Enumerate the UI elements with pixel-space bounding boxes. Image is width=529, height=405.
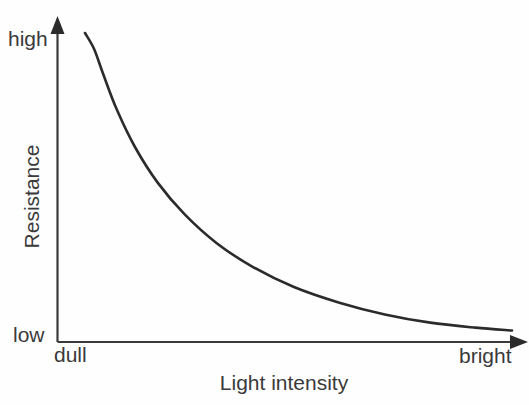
x-axis-title: Light intensity [199,372,369,393]
y-axis-arrowhead [51,16,65,34]
chart-container: high low dull bright Resistance Light in… [0,0,529,405]
y-axis-tick-label-low: low [13,324,45,345]
y-axis-title: Resistance [21,137,42,257]
x-axis [58,335,529,349]
x-axis-tick-label-dull: dull [54,344,87,365]
y-axis-tick-label-high: high [8,28,48,49]
data-series-line [85,33,512,331]
x-axis-arrowhead [510,335,528,349]
x-axis-tick-label-bright: bright [459,345,512,366]
y-axis [51,16,65,342]
